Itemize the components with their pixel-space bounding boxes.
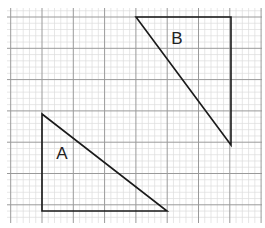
triangle-a-label: A [56, 144, 68, 163]
triangle-b-label: B [171, 29, 182, 48]
triangles-layer: A B [42, 17, 231, 211]
graph-paper-grid [7, 8, 262, 223]
triangle-b [136, 17, 231, 145]
grid-diagram: A B [0, 0, 265, 228]
